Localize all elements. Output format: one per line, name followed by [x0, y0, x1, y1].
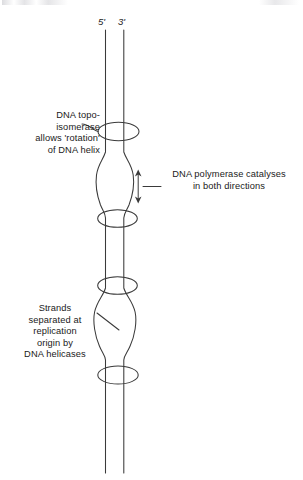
- enzyme-ring-3: [98, 277, 138, 295]
- enzyme-ring-2: [98, 210, 138, 228]
- three-prime-label: 3': [118, 16, 125, 27]
- dna-polymerase-annotation: DNA polymerase catalyses in both directi…: [163, 169, 295, 192]
- topoisomerase-ring-1: [98, 122, 139, 140]
- dna-helicase-annotation: Strands separated at replication origin …: [14, 303, 96, 361]
- dna-replication-illustration: [0, 0, 303, 480]
- five-prime-strand-path: [94, 30, 106, 473]
- five-prime-label: 5': [98, 16, 105, 27]
- three-prime-strand-path: [124, 30, 136, 473]
- helicase-leader-line: [97, 313, 119, 330]
- figure-canvas: 5' 3' DNA topo- isomerase allows 'rotati…: [0, 0, 303, 480]
- enzyme-ring-4: [98, 366, 138, 384]
- topoisomerase-annotation: DNA topo- isomerase allows 'rotation' of…: [14, 110, 100, 156]
